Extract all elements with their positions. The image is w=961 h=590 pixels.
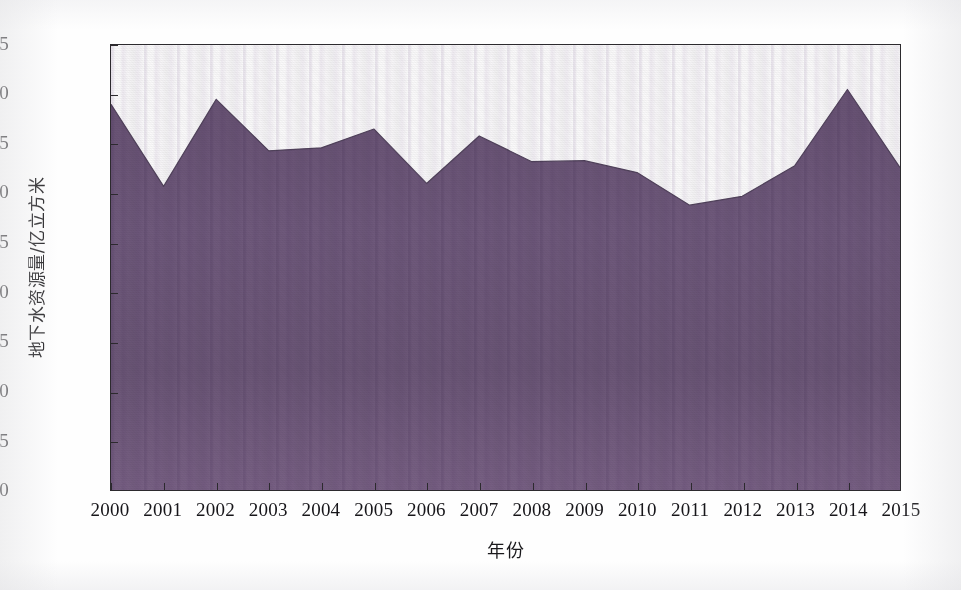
x-tick-mark — [375, 483, 376, 490]
y-tick-label: 35 — [0, 132, 9, 154]
y-tick-label: 15 — [0, 330, 9, 352]
x-tick-mark — [797, 483, 798, 490]
y-tick-label: 45 — [0, 33, 9, 55]
y-axis-title: 地下水资源量/亿立方米 — [22, 44, 52, 491]
y-tick-mark — [111, 343, 118, 344]
y-tick-mark — [111, 95, 118, 96]
x-tick-mark — [586, 483, 587, 490]
y-tick-mark — [111, 244, 118, 245]
x-tick-mark — [111, 483, 112, 490]
y-tick-label: 30 — [0, 181, 9, 203]
y-tick-mark — [111, 144, 118, 145]
x-tick-mark — [322, 483, 323, 490]
x-tick-mark — [480, 483, 481, 490]
x-tick-mark — [164, 483, 165, 490]
x-tick-label: 2015 — [861, 499, 941, 521]
y-tick-label: 10 — [0, 380, 9, 402]
x-tick-mark — [427, 483, 428, 490]
x-axis-title: 年份 — [110, 536, 901, 562]
plot-area — [110, 44, 901, 491]
y-tick-label: 25 — [0, 231, 9, 253]
x-tick-mark — [217, 483, 218, 490]
x-tick-mark — [533, 483, 534, 490]
y-tick-label: 0 — [0, 479, 9, 501]
y-tick-label: 40 — [0, 82, 9, 104]
y-tick-mark — [111, 293, 118, 294]
y-tick-mark — [111, 45, 118, 46]
figure-canvas: 45 40 35 30 25 20 15 10 5 0 地下水资源量/亿立方米 — [0, 0, 961, 590]
area-fill — [111, 90, 900, 491]
x-tick-mark — [269, 483, 270, 490]
y-tick-mark — [111, 393, 118, 394]
area-series-svg — [111, 45, 900, 490]
y-tick-label: 20 — [0, 281, 9, 303]
y-tick-mark — [111, 442, 118, 443]
x-tick-mark — [744, 483, 745, 490]
x-tick-mark — [849, 483, 850, 490]
y-tick-label: 5 — [0, 430, 9, 452]
x-tick-mark — [691, 483, 692, 490]
x-tick-mark — [638, 483, 639, 490]
y-tick-mark — [111, 194, 118, 195]
